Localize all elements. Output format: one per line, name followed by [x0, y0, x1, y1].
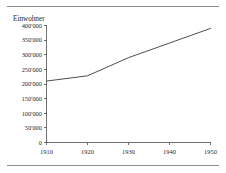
x-axis-ticks: 19101920193019401950 — [40, 143, 217, 155]
y-tick-label: 300'000 — [22, 51, 42, 58]
y-axis-ticks: 050'000100'000150'000200'000250'000300'0… — [22, 22, 47, 146]
x-tick-label: 1940 — [163, 148, 176, 155]
y-tick-label: 200'000 — [22, 80, 42, 87]
y-tick-label: 350'000 — [22, 36, 42, 43]
line-chart: Einwohner 050'000100'000150'000200'00025… — [0, 0, 226, 173]
x-tick-label: 1910 — [40, 148, 53, 155]
x-tick-label: 1920 — [81, 148, 94, 155]
y-tick-label: 250'000 — [22, 66, 42, 73]
y-tick-label: 0 — [39, 139, 42, 146]
figure-container: Einwohner 050'000100'000150'000200'00025… — [0, 0, 226, 173]
chart-svg: Einwohner 050'000100'000150'000200'00025… — [0, 0, 226, 173]
y-tick-label: 400'000 — [22, 22, 42, 29]
x-tick-label: 1950 — [204, 148, 217, 155]
x-tick-label: 1930 — [122, 148, 135, 155]
y-tick-label: 150'000 — [22, 95, 42, 102]
y-tick-label: 50'000 — [25, 124, 42, 131]
y-tick-label: 100'000 — [22, 110, 42, 117]
series-line-einwohner — [47, 28, 211, 81]
